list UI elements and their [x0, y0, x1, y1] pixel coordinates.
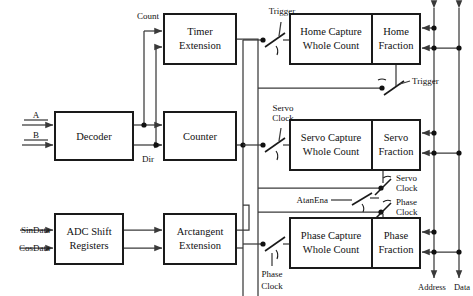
- label-input-sindata: SinData: [21, 225, 50, 235]
- switch-servo-tail: [276, 151, 278, 160]
- block-arctan-label-1: Arctangent: [177, 226, 224, 237]
- block-adc-label-1: ADC Shift: [66, 226, 111, 237]
- block-servo-capture-label-1: Servo Capture: [301, 132, 362, 143]
- block-servo-fraction-label-1: Servo: [384, 132, 409, 143]
- block-timer-extension[interactable]: Timer Extension: [164, 14, 236, 64]
- wire-trigger-top-lead: [279, 22, 281, 36]
- junction-home-data: [456, 45, 461, 50]
- junction-servo-data: [456, 150, 461, 155]
- switch-atanena-blade: [352, 193, 372, 205]
- wire-servoclk-top-lead: [279, 128, 281, 141]
- block-servo-capture-group[interactable]: Servo Capture Whole Count Servo Fraction: [290, 120, 420, 170]
- label-bus-data: Data: [454, 282, 470, 292]
- label-input-b: B: [33, 130, 39, 140]
- junction-servo-addr: [431, 130, 436, 135]
- switch-phasefrac-tail: [383, 200, 391, 202]
- junction-homefrac-trig: [379, 85, 384, 90]
- block-phase-capture-label-2: Whole Count: [303, 244, 359, 255]
- block-diagram-canvas: Decoder Timer Extension Counter ADC Shif…: [0, 0, 473, 296]
- block-arctan-label-2: Extension: [179, 240, 222, 251]
- block-home-capture-group[interactable]: Home Capture Whole Count Home Fraction: [290, 14, 420, 64]
- block-home-capture-label-2: Whole Count: [303, 40, 359, 51]
- switch-atanena-tail: [362, 204, 364, 212]
- wire-timer-out: [236, 39, 258, 296]
- block-decoder-label: Decoder: [76, 131, 112, 142]
- diagram-svg: Decoder Timer Extension Counter ADC Shif…: [0, 0, 473, 296]
- junction-servo-data-cross: [431, 150, 436, 155]
- block-phase-fraction-label-1: Phase: [384, 230, 409, 241]
- switch-homefrac-tail: [378, 79, 386, 80]
- block-adc-shift-registers[interactable]: ADC Shift Registers: [55, 214, 123, 264]
- block-home-capture-label-1: Home Capture: [300, 26, 362, 37]
- label-servo-clock-right-1: Servo: [396, 173, 417, 183]
- junction-phase-addr: [431, 229, 436, 234]
- switch-home-blade: [265, 33, 285, 47]
- block-timer-extension-label-1: Timer: [187, 26, 213, 37]
- block-counter[interactable]: Counter: [164, 112, 236, 160]
- block-decoder[interactable]: Decoder: [55, 112, 133, 160]
- block-phase-fraction-label-2: Fraction: [379, 244, 415, 255]
- label-dir: Dir: [142, 154, 154, 164]
- block-home-fraction-label-1: Home: [383, 26, 409, 37]
- label-count: Count: [137, 11, 160, 21]
- label-input-cosdata: CosData: [19, 243, 50, 253]
- label-bus-address: Address: [418, 282, 446, 292]
- block-phase-capture-group[interactable]: Phase Capture Whole Count Phase Fraction: [290, 218, 420, 268]
- label-trigger-top: Trigger: [269, 6, 296, 16]
- label-servo-clock-right-2: Clock: [396, 183, 418, 193]
- switch-phase-tail: [276, 250, 278, 259]
- label-phase-clock-bottom-1: Phase: [262, 269, 283, 279]
- switch-servofrac-tail: [383, 176, 391, 178]
- switch-phase-blade: [265, 237, 285, 251]
- block-counter-label: Counter: [183, 131, 217, 142]
- label-servo-clock-top-2: Clock: [272, 113, 294, 123]
- label-phase-clock-bottom-2: Clock: [261, 281, 283, 291]
- block-adc-label-2: Registers: [69, 240, 108, 251]
- junction-phase-feed: [260, 241, 265, 246]
- label-atanena: AtanEna: [297, 195, 329, 205]
- junction-servo-feed: [260, 142, 265, 147]
- junction-home-addr: [431, 25, 436, 30]
- junction-count: [141, 122, 146, 127]
- label-input-a: A: [33, 110, 40, 120]
- label-phase-clock-right-1: Phase: [396, 197, 417, 207]
- junction-phase-data-cross: [431, 249, 436, 254]
- label-servo-clock-top-1: Servo: [273, 103, 294, 113]
- label-phase-clock-right-2: Clock: [396, 207, 418, 217]
- junction-home-feed: [260, 37, 265, 42]
- block-home-fraction-label-2: Fraction: [379, 40, 415, 51]
- switch-home-tail: [276, 46, 278, 55]
- junction-phase-data: [456, 249, 461, 254]
- block-arctangent-extension[interactable]: Arctangent Extension: [164, 214, 236, 264]
- block-phase-capture-label-1: Phase Capture: [301, 230, 362, 241]
- switch-servo-blade: [265, 138, 285, 152]
- block-servo-fraction-label-2: Fraction: [379, 146, 415, 157]
- label-trigger-mid: Trigger: [412, 76, 439, 86]
- junction-home-data-cross: [431, 45, 436, 50]
- block-timer-extension-label-2: Extension: [179, 40, 222, 51]
- block-servo-capture-label-2: Whole Count: [303, 146, 359, 157]
- junction-dir: [153, 142, 158, 147]
